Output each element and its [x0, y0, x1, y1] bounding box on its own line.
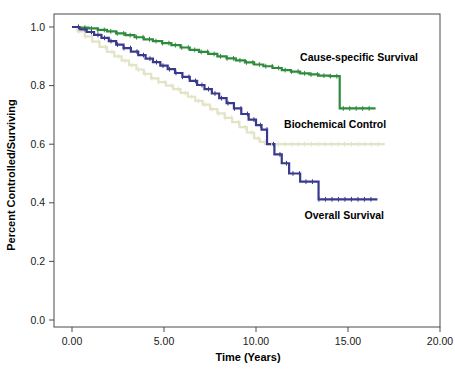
x-tick-label: 20.00: [427, 335, 453, 347]
curve-annotations: Cause-specific SurvivalBiochemical Contr…: [284, 51, 418, 221]
km-survival-chart: 0.005.0010.0015.0020.00 0.00.20.40.60.81…: [0, 0, 455, 370]
y-tick-label: 0.0: [30, 314, 45, 326]
y-tick-label: 0.6: [30, 138, 45, 150]
y-tick-label: 1.0: [30, 21, 45, 33]
x-tick-label: 5.00: [154, 335, 175, 347]
plot-svg: 0.005.0010.0015.0020.00 0.00.20.40.60.81…: [0, 0, 455, 370]
x-axis-title: Time (Years): [215, 351, 281, 363]
y-tick-label: 0.8: [30, 79, 45, 91]
y-axis-title: Percent Controlled/Surviving: [5, 99, 17, 251]
x-axis-ticks: 0.005.0010.0015.0020.00: [62, 327, 454, 347]
x-tick-label: 15.00: [335, 335, 361, 347]
y-axis-ticks: 0.00.20.40.60.81.0: [30, 21, 54, 326]
x-tick-label: 10.00: [243, 335, 269, 347]
y-tick-label: 0.4: [30, 196, 45, 208]
survival-curve: [72, 27, 376, 108]
x-tick-label: 0.00: [62, 335, 83, 347]
curve-label-cause-specific: Cause-specific Survival: [300, 51, 418, 63]
curve-label-biochemical: Biochemical Control: [284, 118, 386, 130]
y-tick-label: 0.2: [30, 255, 45, 267]
curve-label-overall: Overall Survival: [305, 209, 384, 221]
